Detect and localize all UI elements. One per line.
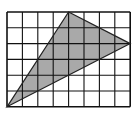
grid-triangle-diagram xyxy=(0,0,140,114)
